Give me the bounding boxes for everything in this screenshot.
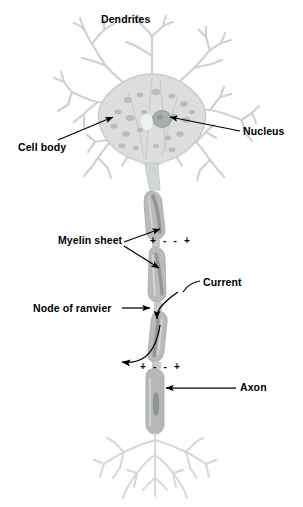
axon-with-myelin	[144, 163, 167, 434]
nucleolus	[157, 114, 163, 119]
label-dendrites: Dendrites	[101, 14, 150, 25]
current-flow-arrows	[122, 292, 178, 362]
label-myelin-sheet: Myelin sheet	[58, 235, 122, 246]
label-node-of-ranvier: Node of ranvier	[33, 303, 112, 314]
neuron-diagram-figure: Dendrites Cell body Nucleus Myelin sheet…	[0, 0, 303, 507]
axon-terminal-arbor	[94, 434, 216, 498]
neuron-illustration	[0, 0, 303, 507]
label-cell-body: Cell body	[18, 142, 66, 153]
charge-signs-lower-node: + - - +	[140, 361, 182, 372]
label-current: Current	[203, 277, 242, 288]
label-nucleus: Nucleus	[243, 126, 285, 137]
nucleus-body	[153, 111, 172, 128]
leader-current	[183, 281, 200, 292]
soma-cell-body	[98, 74, 205, 170]
label-axon: Axon	[240, 382, 267, 393]
charge-signs-upper-node: + - - +	[150, 235, 192, 246]
